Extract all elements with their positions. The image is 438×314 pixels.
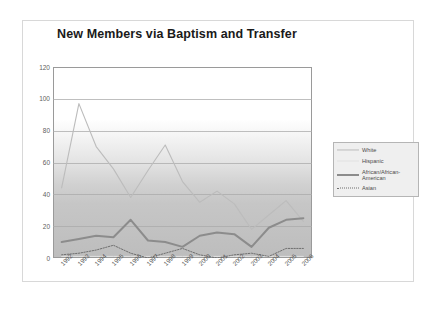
plot-area bbox=[53, 67, 312, 258]
legend-item[interactable]: African/African-American bbox=[337, 169, 400, 182]
y-axis-tick-label: 100 bbox=[24, 95, 50, 102]
series-line bbox=[62, 218, 304, 247]
legend-swatch-icon bbox=[337, 172, 359, 178]
y-axis-tick-label: 20 bbox=[24, 223, 50, 230]
legend-swatch-icon bbox=[337, 158, 359, 164]
legend-item[interactable]: Hispanic bbox=[337, 158, 383, 164]
legend-label-line2: American bbox=[362, 175, 400, 181]
chart-legend: WhiteHispanicAfrican/African-AmericanAsi… bbox=[333, 142, 419, 197]
y-axis-tick-label: 0 bbox=[24, 255, 50, 262]
series-line bbox=[62, 104, 304, 230]
series-layer bbox=[53, 67, 312, 258]
x-axis: 1992199319941995199619971998199920002001… bbox=[53, 259, 312, 301]
y-axis: 020406080100120 bbox=[22, 60, 50, 266]
y-axis-tick-label: 60 bbox=[24, 159, 50, 166]
legend-item[interactable]: White bbox=[337, 147, 376, 153]
legend-label: Hispanic bbox=[362, 158, 383, 164]
chart-title: New Members via Baptism and Transfer bbox=[22, 27, 332, 41]
legend-item[interactable]: Asian bbox=[337, 185, 376, 191]
legend-swatch-icon bbox=[337, 147, 359, 153]
y-axis-tick-label: 40 bbox=[24, 191, 50, 198]
legend-swatch-icon bbox=[337, 185, 359, 191]
legend-label: White bbox=[362, 147, 376, 153]
slide-canvas: New Members via Baptism and Transfer 020… bbox=[0, 0, 438, 314]
legend-label: African/African-American bbox=[362, 169, 400, 182]
legend-label: Asian bbox=[362, 185, 376, 191]
y-axis-tick-label: 120 bbox=[24, 64, 50, 71]
y-axis-tick-label: 80 bbox=[24, 127, 50, 134]
